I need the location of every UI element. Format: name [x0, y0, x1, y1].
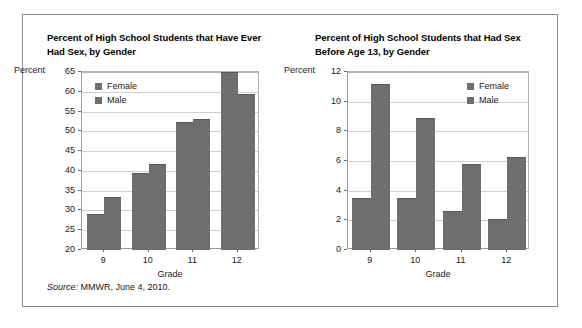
bar-male-grade-9: [104, 197, 121, 250]
bar-female-grade-10: [397, 198, 416, 250]
legend: FemaleMale: [467, 79, 509, 107]
bar-female-grade-9: [87, 214, 104, 250]
y-tick-mark: [344, 160, 347, 161]
y-tick-label: 12: [315, 66, 341, 76]
y-axis-label-right: Percent: [269, 65, 315, 75]
bar-female-grade-11: [176, 122, 193, 250]
bar-male-grade-10: [416, 118, 435, 250]
x-tick-mark: [506, 249, 507, 252]
x-tick-label: 11: [456, 255, 465, 265]
legend-item: Male: [95, 93, 137, 107]
bar-female-grade-11: [443, 211, 462, 250]
legend-label: Female: [479, 81, 509, 91]
legend-item: Female: [95, 79, 137, 93]
y-tick-label: 10: [315, 96, 341, 106]
y-tick-mark: [344, 101, 347, 102]
y-tick-mark: [344, 71, 347, 72]
figure-frame: Percent of High School Students that Hav…: [22, 14, 558, 307]
legend-item: Male: [467, 93, 509, 107]
y-tick-label: 40: [45, 165, 75, 175]
y-tick-label: 8: [315, 125, 341, 135]
chart-panels: Percent of High School Students that Hav…: [23, 15, 559, 308]
y-tick-mark: [78, 111, 81, 112]
chart-title-right: Percent of High School Students that Had…: [315, 31, 543, 58]
x-axis-label: Grade: [157, 269, 182, 279]
legend-label: Male: [107, 95, 127, 105]
legend-swatch-icon: [467, 83, 474, 90]
chart-panel-right: Percent of High School Students that Had…: [291, 15, 559, 308]
y-tick-mark: [344, 190, 347, 191]
y-tick-label: 20: [45, 244, 75, 254]
bar-male-grade-11: [462, 164, 481, 250]
y-tick-label: 30: [45, 204, 75, 214]
x-tick-label: 9: [101, 255, 106, 265]
source-text: MMWR, June 4, 2010.: [81, 282, 171, 292]
legend: FemaleMale: [95, 79, 137, 107]
x-tick-label: 10: [143, 255, 153, 265]
y-tick-mark: [78, 150, 81, 151]
x-tick-mark: [192, 249, 193, 252]
y-tick-mark: [78, 249, 81, 250]
y-tick-label: 4: [315, 185, 341, 195]
chart-title-left: Percent of High School Students that Hav…: [47, 31, 275, 58]
bar-male-grade-12: [507, 157, 526, 250]
y-tick-mark: [344, 249, 347, 250]
x-tick-mark: [370, 249, 371, 252]
bar-female-grade-12: [221, 72, 238, 250]
x-tick-label: 10: [410, 255, 420, 265]
y-tick-label: 60: [45, 86, 75, 96]
y-tick-label: 65: [45, 66, 75, 76]
y-tick-mark: [78, 170, 81, 171]
y-tick-label: 0: [315, 244, 341, 254]
y-tick-label: 45: [45, 145, 75, 155]
y-tick-mark: [78, 71, 81, 72]
y-tick-label: 55: [45, 106, 75, 116]
legend-swatch-icon: [95, 97, 102, 104]
y-tick-label: 50: [45, 125, 75, 135]
y-tick-mark: [78, 229, 81, 230]
x-axis-label: Grade: [425, 269, 450, 279]
x-tick-label: 12: [501, 255, 511, 265]
bar-male-grade-10: [149, 164, 166, 250]
y-tick-mark: [78, 130, 81, 131]
y-tick-mark: [78, 91, 81, 92]
source-note: Source: MMWR, June 4, 2010.: [47, 282, 170, 292]
bar-female-grade-9: [352, 198, 371, 250]
x-tick-label: 11: [188, 255, 197, 265]
legend-label: Male: [479, 95, 499, 105]
chart-panel-left: Percent of High School Students that Hav…: [23, 15, 291, 308]
y-tick-mark: [344, 130, 347, 131]
y-tick-mark: [78, 209, 81, 210]
x-tick-mark: [237, 249, 238, 252]
legend-item: Female: [467, 79, 509, 93]
y-tick-label: 25: [45, 224, 75, 234]
legend-label: Female: [107, 81, 137, 91]
legend-swatch-icon: [95, 83, 102, 90]
x-tick-mark: [415, 249, 416, 252]
x-tick-mark: [148, 249, 149, 252]
y-tick-label: 35: [45, 185, 75, 195]
bar-male-grade-11: [193, 119, 210, 250]
source-prefix: Source:: [47, 282, 78, 292]
bar-female-grade-12: [488, 219, 507, 250]
y-axis-label-left: Percent: [0, 65, 45, 75]
y-tick-mark: [344, 219, 347, 220]
bar-male-grade-9: [371, 84, 390, 250]
y-tick-mark: [78, 190, 81, 191]
x-tick-label: 12: [232, 255, 242, 265]
y-tick-label: 2: [315, 214, 341, 224]
y-tick-label: 6: [315, 155, 341, 165]
x-tick-mark: [461, 249, 462, 252]
x-tick-label: 9: [367, 255, 372, 265]
gridline: [348, 72, 528, 73]
bar-male-grade-12: [238, 94, 255, 250]
x-tick-mark: [103, 249, 104, 252]
legend-swatch-icon: [467, 97, 474, 104]
bar-female-grade-10: [132, 173, 149, 250]
